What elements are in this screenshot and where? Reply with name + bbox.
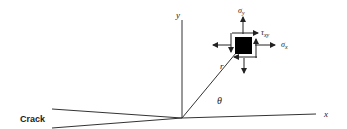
crack-upper-face xyxy=(52,109,182,118)
stress-element xyxy=(235,37,252,54)
crack-tip-stress-diagram: Crack y x r θ σy τxy σx xyxy=(0,0,347,129)
x-axis xyxy=(182,114,316,118)
sigma-y-label: σy xyxy=(238,6,245,16)
radius-label: r xyxy=(220,61,224,71)
theta-label: θ xyxy=(217,95,222,106)
crack-lower-face xyxy=(52,118,182,128)
y-axis-label: y xyxy=(175,10,180,20)
radius-line xyxy=(182,53,236,118)
tau-xy-label: τxy xyxy=(261,28,270,38)
x-axis-label: x xyxy=(323,109,328,119)
sigma-x-label: σx xyxy=(281,40,288,50)
crack-label: Crack xyxy=(20,114,46,124)
